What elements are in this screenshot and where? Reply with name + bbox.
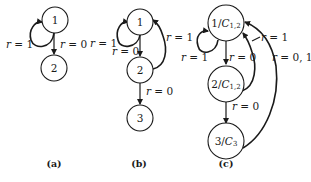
node-b-2-label: 2 — [137, 64, 144, 76]
caption-a: (a) — [46, 158, 61, 169]
edge-b-2-3-label: r = 0 — [146, 85, 173, 97]
edge-c-3-1-label: r = 0, 1 — [272, 51, 311, 63]
edge-a-1-1-label: r = 1 — [6, 38, 33, 50]
node-b-3-label: 3 — [137, 112, 144, 124]
edge-c-2-1-label-pointer — [252, 37, 260, 41]
caption-b: (b) — [131, 158, 147, 169]
node-b-1-label: 1 — [137, 16, 144, 28]
edge-c-2-1-label: r = 1 — [261, 31, 288, 43]
edge-b-1-2-label: r = 0 — [112, 45, 139, 57]
diagram-b: 1 2 3 r = 1 r = 0 r = 1 r = 0 (b) — [90, 9, 193, 169]
edge-b-2-1-label: r = 1 — [166, 31, 193, 43]
node-a-1-label: 1 — [52, 14, 59, 26]
edge-b-2-1 — [153, 20, 166, 69]
node-a-2-label: 2 — [51, 62, 58, 74]
edge-c-2-3-label: r = 0 — [232, 100, 259, 112]
state-diagrams: 1 2 r = 1 r = 0 (a) 1 2 3 r = 1 r = 0 r … — [0, 0, 311, 182]
diagram-a: 1 2 r = 1 r = 0 (a) — [6, 7, 87, 169]
edge-a-1-2-label: r = 0 — [60, 38, 87, 50]
edge-c-1-2-label: r = 0 — [229, 51, 256, 63]
edge-c-1-1-label: r = 1 — [181, 51, 208, 63]
diagram-c: 1/C1,2 2/C1,2 3/C3 r = 1 r = 0 r = 1 r =… — [181, 5, 311, 169]
caption-c: (c) — [219, 158, 234, 169]
